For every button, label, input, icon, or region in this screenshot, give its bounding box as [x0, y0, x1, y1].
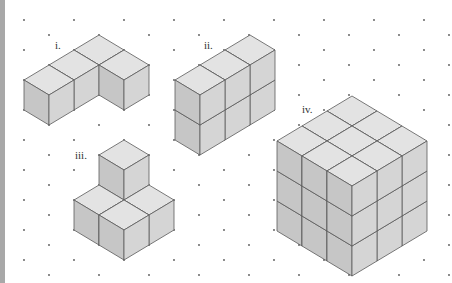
grid-dot [448, 154, 450, 156]
grid-dot [323, 19, 325, 21]
grid-dot [398, 94, 400, 96]
grid-dot [48, 214, 50, 216]
grid-dot [373, 49, 375, 51]
grid-dot [323, 49, 325, 51]
grid-dot [198, 34, 200, 36]
grid-dot [73, 259, 75, 261]
grid-dot [398, 274, 400, 276]
grid-dot [48, 274, 50, 276]
isometric-diagram: i.ii.iii.iv. [0, 0, 452, 283]
grid-dot [423, 109, 425, 111]
grid-dot [298, 34, 300, 36]
grid-dot [273, 169, 275, 171]
grid-dot [323, 109, 325, 111]
grid-dot [448, 214, 450, 216]
grid-dot [273, 229, 275, 231]
grid-dot [223, 259, 225, 261]
figure-label: ii. [204, 39, 213, 51]
grid-dot [148, 124, 150, 126]
grid-dot [23, 229, 25, 231]
grid-dot [248, 214, 250, 216]
grid-dot [173, 19, 175, 21]
grid-dot [198, 184, 200, 186]
grid-dot [248, 184, 250, 186]
grid-dot [98, 274, 100, 276]
grid-dot [173, 259, 175, 261]
grid-dot [223, 229, 225, 231]
grid-dot [273, 199, 275, 201]
grid-dot [248, 274, 250, 276]
grid-dot [348, 34, 350, 36]
figure-label: iii. [75, 149, 87, 161]
grid-dot [298, 274, 300, 276]
figure-ii: ii. [175, 35, 275, 155]
grid-dot [148, 274, 150, 276]
figure-label: i. [55, 39, 61, 51]
grid-dot [73, 169, 75, 171]
grid-dot [223, 19, 225, 21]
grid-dot [223, 199, 225, 201]
grid-dot [423, 19, 425, 21]
grid-dot [448, 94, 450, 96]
grid-dot [398, 64, 400, 66]
grid-dot [448, 34, 450, 36]
grid-dot [298, 124, 300, 126]
grid-dot [273, 19, 275, 21]
grid-dot [23, 199, 25, 201]
grid-dot [23, 139, 25, 141]
grid-dot [398, 34, 400, 36]
grid-dot [23, 19, 25, 21]
grid-dot [423, 49, 425, 51]
figure-i: i. [24, 35, 149, 125]
grid-dot [373, 79, 375, 81]
grid-dot [448, 64, 450, 66]
figure-iii: iii. [74, 140, 174, 260]
figure-label: iv. [302, 103, 313, 115]
grid-dot [48, 154, 50, 156]
grid-dot [298, 94, 300, 96]
grid-dot [23, 169, 25, 171]
grid-dot [273, 259, 275, 261]
grid-dot [173, 169, 175, 171]
grid-dot [423, 79, 425, 81]
grid-dot [348, 94, 350, 96]
grid-dot [98, 124, 100, 126]
grid-dot [223, 169, 225, 171]
grid-dot [423, 259, 425, 261]
grid-dot [198, 274, 200, 276]
grid-dot [248, 154, 250, 156]
grid-dot [23, 49, 25, 51]
grid-dot [73, 139, 75, 141]
grid-dot [173, 49, 175, 51]
grid-dot [448, 244, 450, 246]
grid-dot [448, 124, 450, 126]
figures: i.ii.iii.iv. [24, 35, 427, 276]
grid-dot [323, 79, 325, 81]
grid-dot [48, 184, 50, 186]
grid-dot [273, 139, 275, 141]
grid-dot [448, 184, 450, 186]
grid-dot [48, 34, 50, 36]
grid-dot [198, 214, 200, 216]
grid-dot [23, 259, 25, 261]
figure-iv: iv. [277, 96, 427, 276]
grid-dot [48, 244, 50, 246]
grid-dot [148, 34, 150, 36]
grid-dot [298, 64, 300, 66]
grid-dot [373, 19, 375, 21]
grid-dot [198, 244, 200, 246]
grid-dot [73, 19, 75, 21]
grid-dot [448, 274, 450, 276]
grid-dot [348, 64, 350, 66]
grid-dot [123, 19, 125, 21]
grid-dot [248, 244, 250, 246]
